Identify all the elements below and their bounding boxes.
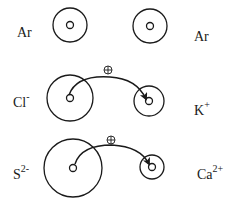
argon-row-left-atom <box>53 8 87 42</box>
charge-superscript: - <box>26 91 29 102</box>
element-symbol: Ca <box>197 167 213 182</box>
potassium-ion-label: K+ <box>194 104 210 118</box>
electron-transfer-plus-icon <box>107 136 115 144</box>
chloride-potassium-row-left-atom <box>47 75 93 121</box>
argon-right-label: Ar <box>194 30 209 44</box>
electron-shell-circle <box>133 9 167 43</box>
electron-shell-circle <box>140 155 164 179</box>
argon-left-label: Ar <box>17 26 32 40</box>
nucleus-circle <box>67 22 74 29</box>
electron-transfer-plus-icon <box>104 66 112 74</box>
electron-shell-circle <box>47 75 93 121</box>
nucleus-circle <box>67 95 74 102</box>
element-symbol: S <box>13 167 21 182</box>
chloride-potassium-row-right-atom <box>134 86 164 116</box>
calcium-ion-label: Ca2+ <box>197 168 223 182</box>
nucleus-circle <box>147 23 154 30</box>
nucleus-circle <box>70 165 77 172</box>
charge-superscript: + <box>204 99 210 110</box>
sulfide-calcium-row-right-atom <box>140 155 164 179</box>
electron-shell-circle <box>53 8 87 42</box>
charge-superscript: 2- <box>21 163 29 174</box>
electron-transfer-arrow <box>75 145 149 164</box>
electron-shell-circle <box>134 86 164 116</box>
argon-row-right-atom <box>133 9 167 43</box>
element-symbol: Cl <box>13 95 26 110</box>
element-symbol: Ar <box>194 29 209 44</box>
charge-superscript: 2+ <box>213 163 224 174</box>
nucleus-circle <box>149 164 156 171</box>
element-symbol: K <box>194 103 204 118</box>
chloride-ion-label: Cl- <box>13 96 30 110</box>
sulfide-ion-label: S2- <box>13 168 29 182</box>
element-symbol: Ar <box>17 25 32 40</box>
shapes-layer <box>44 8 167 197</box>
